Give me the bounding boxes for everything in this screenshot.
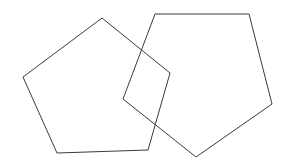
pentagons-svg xyxy=(0,0,287,166)
figure-canvas xyxy=(0,0,287,166)
canvas-background xyxy=(0,0,287,166)
